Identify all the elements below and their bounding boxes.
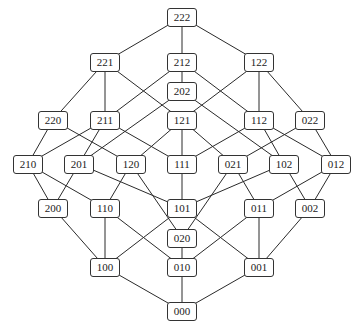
node-101: 101 [167,199,197,218]
node-002: 002 [295,199,325,218]
node-020: 020 [167,229,197,248]
node-000: 000 [167,302,197,321]
node-120: 120 [116,155,146,174]
node-111: 111 [167,155,197,174]
node-010: 010 [167,258,197,277]
node-220: 220 [38,111,68,130]
node-222: 222 [167,8,197,27]
node-201: 201 [64,155,94,174]
node-221: 221 [90,53,120,72]
node-211: 211 [90,111,120,130]
node-202: 202 [167,82,197,101]
node-022: 022 [295,111,325,130]
node-210: 210 [13,155,43,174]
node-011: 011 [244,199,274,218]
node-212: 212 [167,53,197,72]
node-102: 102 [269,155,299,174]
hasse-diagram: 2222212121222022202111211120222102011201… [0,0,362,331]
node-012: 012 [321,155,351,174]
node-021: 021 [218,155,248,174]
node-110: 110 [90,199,120,218]
node-112: 112 [244,111,274,130]
node-122: 122 [244,53,274,72]
node-121: 121 [167,111,197,130]
node-100: 100 [90,258,120,277]
node-200: 200 [38,199,68,218]
node-001: 001 [244,258,274,277]
